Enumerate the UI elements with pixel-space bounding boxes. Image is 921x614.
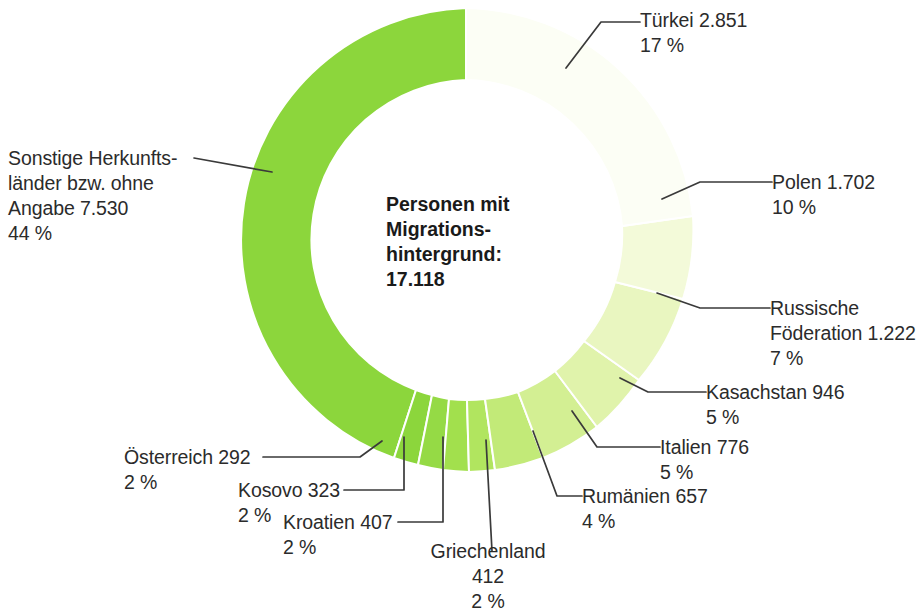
label-rumaenien[interactable]: Rumänien 657 4 % xyxy=(582,484,708,534)
label-kosovo[interactable]: Kosovo 323 2 % xyxy=(238,478,340,528)
chart-canvas: Personen mit Migrations- hintergrund: 17… xyxy=(0,0,921,614)
label-italien[interactable]: Italien 776 5 % xyxy=(660,435,749,485)
label-griechenland[interactable]: Griechenland 412 2 % xyxy=(423,539,553,614)
label-polen[interactable]: Polen 1.702 10 % xyxy=(772,170,875,220)
center-total-label: Personen mit Migrations- hintergrund: 17… xyxy=(386,192,596,292)
label-kasachstan[interactable]: Kasachstan 946 5 % xyxy=(706,380,844,430)
label-tuerkei[interactable]: Türkei 2.851 17 % xyxy=(640,8,747,58)
label-oesterreich[interactable]: Österreich 292 2 % xyxy=(124,445,251,495)
label-sonstige[interactable]: Sonstige Herkunfts- länder bzw. ohne Ang… xyxy=(8,146,177,246)
label-russische-foederation[interactable]: Russische Föderation 1.222 7 % xyxy=(770,296,916,371)
